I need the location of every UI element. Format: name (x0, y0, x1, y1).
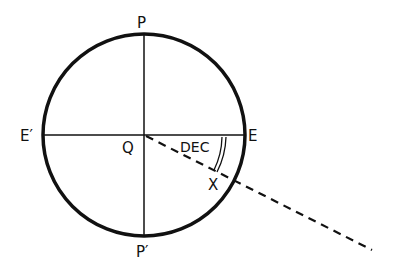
label-west: E′ (20, 127, 33, 145)
label-pole-north: P (137, 14, 146, 32)
label-pole-south: P′ (136, 243, 149, 261)
label-point-x: X (208, 176, 218, 194)
label-declination: DEC (180, 139, 210, 155)
label-center: Q (122, 139, 134, 157)
declination-diagram: P P′ E E′ Q DEC X (0, 0, 395, 267)
label-east: E (248, 127, 257, 145)
